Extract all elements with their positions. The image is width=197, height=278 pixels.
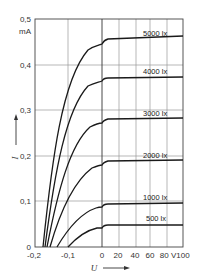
x-axis-arrow-icon xyxy=(103,266,130,270)
curve-3000lx xyxy=(47,118,183,247)
y-axis-ticks: 0 0,1 0,2 0,3 0,4 0,5 mA xyxy=(19,15,32,252)
svg-text:100: 100 xyxy=(176,251,190,260)
grid xyxy=(35,19,183,247)
plot-frame xyxy=(35,19,183,247)
label-1000lx: 1000 lx xyxy=(143,193,167,202)
svg-text:-0,1: -0,1 xyxy=(61,251,75,260)
svg-text:80 V: 80 V xyxy=(160,251,177,260)
label-2000lx: 2000 lx xyxy=(143,151,167,160)
y-axis-label: I xyxy=(10,156,20,161)
svg-text:60: 60 xyxy=(146,251,155,260)
svg-text:0,1: 0,1 xyxy=(20,197,32,206)
svg-text:20: 20 xyxy=(114,251,123,260)
svg-text:40: 40 xyxy=(131,251,140,260)
photodiode-iv-chart: 5000 lx 4000 lx 3000 lx 2000 lx 1000 lx … xyxy=(0,0,197,278)
x-axis-label: U xyxy=(91,263,98,273)
x-axis-ticks: -0,2 -0,1 0 20 40 60 80 V 100 xyxy=(27,251,190,260)
svg-text:0,2: 0,2 xyxy=(20,152,32,161)
svg-text:0,3: 0,3 xyxy=(20,106,32,115)
svg-text:0: 0 xyxy=(100,251,105,260)
svg-text:-0,2: -0,2 xyxy=(27,251,41,260)
y-unit-label: mA xyxy=(19,27,32,36)
label-4000lx: 4000 lx xyxy=(143,67,167,76)
label-3000lx: 3000 lx xyxy=(143,109,167,118)
label-500lx: 500 lx xyxy=(146,214,166,223)
svg-text:0,5: 0,5 xyxy=(20,15,32,24)
y-axis-arrow-icon xyxy=(14,114,18,145)
curve-500lx xyxy=(68,225,183,247)
svg-text:0,4: 0,4 xyxy=(20,61,32,70)
label-5000lx: 5000 lx xyxy=(143,29,167,38)
